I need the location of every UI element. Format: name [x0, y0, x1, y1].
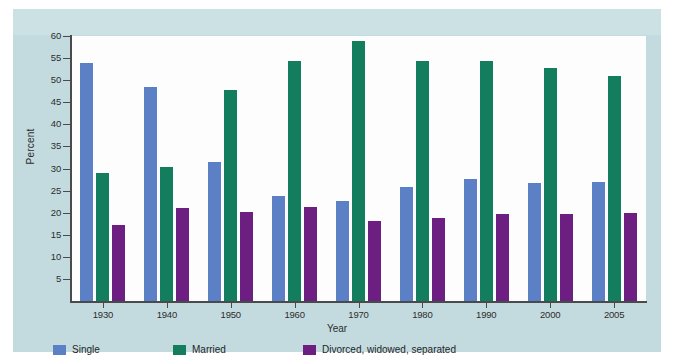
bar-divorced-2000: [560, 214, 573, 301]
legend-swatch-icon: [173, 345, 186, 355]
y-axis-tick: [63, 257, 71, 258]
bar-married-1980: [416, 61, 429, 301]
x-axis-tick: [614, 303, 615, 308]
y-axis-label: 45: [13, 96, 61, 107]
bar-divorced-1940: [176, 208, 189, 301]
x-axis-tick: [167, 303, 168, 308]
y-axis-tick: [63, 169, 71, 170]
y-axis-label-text: 20: [17, 207, 61, 218]
bar-divorced-1930: [112, 225, 125, 301]
y-axis-label: 10: [13, 251, 61, 262]
x-axis-tick: [295, 303, 296, 308]
legend-item-divorced[interactable]: Divorced, widowed, separated: [303, 340, 456, 354]
legend-item-single[interactable]: Single: [53, 340, 100, 354]
legend-swatch-icon: [303, 345, 316, 355]
y-axis-label: 5: [13, 273, 61, 284]
x-axis-tick: [103, 303, 104, 308]
y-axis-label: 50: [13, 74, 61, 85]
y-axis-tick: [63, 213, 71, 214]
x-axis-label-1990: 1990: [461, 309, 511, 320]
bar-single-1960: [272, 196, 285, 301]
x-axis-tick: [422, 303, 423, 308]
y-axis-label: 55: [13, 52, 61, 63]
y-axis-tick: [63, 191, 71, 192]
x-axis-tick: [359, 303, 360, 308]
y-axis-label: 15: [13, 229, 61, 240]
y-axis-tick: [63, 279, 71, 280]
bar-married-1960: [288, 61, 301, 301]
y-axis-title: Percent: [25, 92, 36, 202]
y-axis-label-text: 10: [17, 251, 61, 262]
x-axis-label-1970: 1970: [334, 309, 384, 320]
bar-single-1930: [80, 63, 93, 301]
x-axis-tick: [550, 303, 551, 308]
bar-married-1970: [352, 41, 365, 301]
y-axis-label: 25: [13, 185, 61, 196]
bar-divorced-1990: [496, 214, 509, 301]
bar-single-2000: [528, 183, 541, 301]
legend-label: Single: [72, 344, 100, 355]
y-axis-label-text: 5: [17, 273, 61, 284]
bar-divorced-1980: [432, 218, 445, 301]
bar-divorced-1960: [304, 207, 317, 301]
bar-married-1990: [480, 61, 493, 301]
bar-married-2000: [544, 68, 557, 301]
x-axis-label-1960: 1960: [270, 309, 320, 320]
bar-single-1990: [464, 179, 477, 301]
legend-label: Divorced, widowed, separated: [322, 344, 456, 355]
bar-divorced-1970: [368, 221, 381, 301]
legend-swatch-icon: [53, 345, 66, 355]
bar-single-1950: [208, 162, 221, 301]
y-axis-label-text: 50: [17, 74, 61, 85]
x-axis-title: Year: [13, 323, 661, 334]
y-axis-label-text: 15: [17, 229, 61, 240]
bar-married-2005: [608, 76, 621, 301]
bar-single-2005: [592, 182, 605, 301]
bar-single-1940: [144, 87, 157, 301]
bar-married-1950: [224, 90, 237, 301]
y-axis-label: 20: [13, 207, 61, 218]
x-axis-label-1930: 1930: [78, 309, 128, 320]
y-axis-label: 60: [13, 30, 61, 41]
y-axis-label: 40: [13, 118, 61, 129]
bar-married-1930: [96, 173, 109, 301]
y-axis-tick: [63, 36, 71, 37]
x-axis-tick: [231, 303, 232, 308]
x-axis-label-1940: 1940: [142, 309, 192, 320]
y-axis-tick: [63, 58, 71, 59]
x-axis-label-1980: 1980: [397, 309, 447, 320]
legend-item-married[interactable]: Married: [173, 340, 226, 354]
bar-single-1980: [400, 187, 413, 301]
x-axis-label-2000: 2000: [525, 309, 575, 320]
bar-single-1970: [336, 201, 349, 301]
y-axis-label-text: 60: [17, 30, 61, 41]
y-axis-tick: [63, 102, 71, 103]
x-axis-tick: [486, 303, 487, 308]
legend-label: Married: [192, 344, 226, 355]
y-axis-tick: [63, 80, 71, 81]
y-axis-label: 30: [13, 163, 61, 174]
y-axis-tick: [63, 235, 71, 236]
y-axis-label-text: 55: [17, 52, 61, 63]
bar-divorced-2005: [624, 213, 637, 301]
y-axis-tick: [63, 124, 71, 125]
y-axis-label: 35: [13, 140, 61, 151]
y-axis-tick: [63, 146, 71, 147]
chart-figure: 51015202530354045505560 Percent 19301940…: [13, 9, 661, 352]
x-axis-label-2005: 2005: [589, 309, 639, 320]
bar-married-1940: [160, 167, 173, 301]
panel-top-band: [13, 9, 661, 35]
x-axis-label-1950: 1950: [206, 309, 256, 320]
bar-divorced-1950: [240, 212, 253, 301]
